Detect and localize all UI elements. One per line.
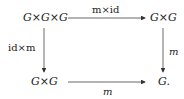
node-top-left: G×G×G (23, 12, 68, 24)
label-bottom-arrow: m (103, 86, 112, 97)
label-left-arrow: id×m (8, 42, 35, 53)
node-bottom-right: G. (158, 76, 170, 88)
label-right-arrow: m (169, 46, 178, 57)
label-top-arrow: m×id (92, 4, 119, 15)
node-bottom-left: G×G (31, 76, 58, 88)
node-top-right: G×G (150, 12, 177, 24)
